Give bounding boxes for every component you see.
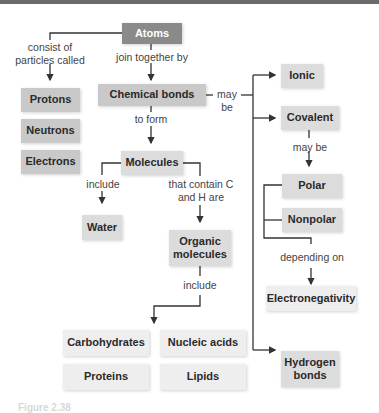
- node-carbohydrates: Carbohydrates: [63, 330, 149, 356]
- node-electronegativity: Electronegativity: [266, 286, 356, 311]
- node-covalent-label: Covalent: [287, 111, 333, 124]
- node-hydrogen-bonds: Hydrogen bonds: [281, 351, 339, 387]
- node-ionic: Ionic: [281, 64, 323, 88]
- node-proteins: Proteins: [63, 364, 149, 390]
- edge-label-may-be: may be: [212, 88, 242, 114]
- node-protons: Protons: [21, 88, 80, 112]
- node-nucleic-acids: Nucleic acids: [160, 330, 246, 356]
- node-nonpolar: Nonpolar: [282, 208, 342, 232]
- node-organic-molecules-label: Organic molecules: [169, 235, 231, 261]
- node-ionic-label: Ionic: [289, 69, 315, 82]
- edge-label-consist-of: consist of particles called: [10, 41, 90, 67]
- node-molecules-label: Molecules: [125, 156, 178, 169]
- node-protons-label: Protons: [30, 93, 72, 106]
- node-nonpolar-label: Nonpolar: [288, 213, 336, 226]
- figure-caption: Figure 2.38: [18, 402, 71, 413]
- node-polar-label: Polar: [298, 179, 326, 192]
- node-atoms: Atoms: [122, 23, 182, 44]
- node-polar: Polar: [282, 174, 342, 198]
- edge-label-join-together-by: join together by: [108, 51, 196, 64]
- node-water-label: Water: [87, 221, 117, 234]
- node-covalent: Covalent: [281, 106, 339, 130]
- node-carbohydrates-label: Carbohydrates: [67, 336, 145, 349]
- node-organic-molecules: Organic molecules: [169, 230, 231, 266]
- node-molecules: Molecules: [121, 151, 183, 175]
- node-lipids: Lipids: [160, 364, 246, 390]
- node-water: Water: [82, 215, 122, 240]
- node-atoms-label: Atoms: [135, 27, 169, 40]
- node-nucleic-acids-label: Nucleic acids: [168, 336, 238, 349]
- edge-label-that-contain: that contain C and H are: [168, 178, 234, 204]
- node-neutrons-label: Neutrons: [26, 124, 74, 137]
- node-hydrogen-bonds-label: Hydrogen bonds: [281, 356, 339, 382]
- node-electronegativity-label: Electronegativity: [267, 292, 356, 305]
- node-electrons: Electrons: [21, 150, 80, 174]
- node-proteins-label: Proteins: [84, 370, 128, 383]
- node-neutrons: Neutrons: [21, 119, 80, 143]
- node-electrons-label: Electrons: [25, 155, 75, 168]
- node-chemical-bonds: Chemical bonds: [98, 84, 206, 106]
- edge-label-include-water: include: [83, 178, 123, 191]
- edge-label-may-be-covalent: may be: [289, 141, 331, 154]
- edge-label-depending-on: depending on: [276, 251, 348, 264]
- node-lipids-label: Lipids: [187, 370, 219, 383]
- edge-label-include-organic: include: [180, 279, 220, 292]
- edge-label-to-form: to form: [125, 113, 177, 126]
- node-chemical-bonds-label: Chemical bonds: [110, 88, 195, 101]
